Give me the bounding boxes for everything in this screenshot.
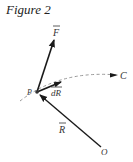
- label-f: F: [52, 27, 60, 38]
- label-c: C: [120, 70, 127, 81]
- label-dr: dR: [51, 88, 62, 98]
- label-p: P: [26, 88, 32, 97]
- point-p-dot: [35, 90, 39, 94]
- label-r: R: [58, 124, 65, 135]
- vector-r: [40, 95, 101, 147]
- curve-c-arrow-icon: [110, 73, 118, 78]
- vector-diagram: F P dR C R O: [0, 0, 133, 162]
- label-o: O: [101, 147, 108, 157]
- vector-f: [37, 40, 54, 92]
- curve-c: [20, 74, 117, 101]
